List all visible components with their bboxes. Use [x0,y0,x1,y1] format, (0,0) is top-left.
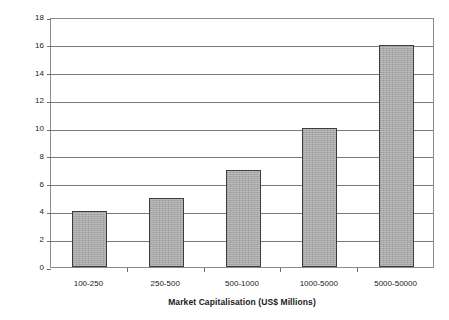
bar[interactable] [149,198,184,267]
bar-chart-figure: Average Number of Analyst Estimates Mark… [0,0,449,320]
x-axis-tick-mark [204,268,205,272]
x-axis-tick-mark [280,268,281,272]
bar[interactable] [226,170,261,267]
y-axis-tick-mark [47,269,51,270]
y-axis-tick-label: 12 [24,97,44,105]
bar[interactable] [302,128,337,267]
y-axis-tick-label: 2 [24,236,44,244]
plot-area [50,18,434,268]
y-axis-tick-label: 8 [24,153,44,161]
x-axis-title: Market Capitalisation (US$ Millions) [50,297,434,307]
x-axis-tick-label: 100-250 [50,279,127,288]
y-axis-tick-label: 10 [24,125,44,133]
y-axis-tick-label: 14 [24,70,44,78]
bars-layer [51,19,433,267]
x-axis-tick-label: 250-500 [127,279,204,288]
y-axis-tick-label: 0 [24,264,44,272]
bar[interactable] [72,211,107,267]
y-axis-tick-label: 6 [24,181,44,189]
x-axis-tick-label: 500-1000 [204,279,281,288]
bar[interactable] [379,45,414,267]
x-axis-tick-mark [357,268,358,272]
y-axis-tick-label: 16 [24,42,44,50]
y-axis-tick-label: 18 [24,14,44,22]
x-axis-tick-mark [127,268,128,272]
y-axis-tick-label: 4 [24,208,44,216]
x-axis-tick-label: 5000-50000 [357,279,434,288]
x-axis-tick-label: 1000-5000 [280,279,357,288]
